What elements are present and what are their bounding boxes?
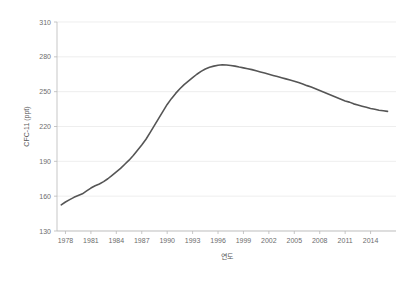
data-series-group [61,65,387,205]
y-tick-label: 250 [39,88,51,95]
y-tick-label: 160 [39,193,51,200]
y-tick-label: 310 [39,19,51,26]
line-chart: 130160190220250280310 197819811984198719… [0,0,414,282]
x-tick-label: 2002 [261,237,277,244]
x-tick-label: 1996 [210,237,226,244]
y-axis-ticks: 130160190220250280310 [39,19,57,235]
x-tick-label: 1978 [58,237,74,244]
gridlines-group [57,22,396,231]
y-tick-label: 190 [39,158,51,165]
series-line-cfc11 [61,65,387,205]
y-axis-title: CFC-11 (ppt) [23,106,31,146]
x-axis-ticks: 1978198119841987199019931996199920022005… [58,231,379,244]
x-tick-label: 2008 [312,237,328,244]
x-tick-label: 2011 [338,237,353,244]
x-tick-label: 1999 [236,237,252,244]
y-tick-label: 130 [39,228,51,235]
chart-container: 130160190220250280310 197819811984198719… [0,0,414,282]
x-tick-label: 1981 [83,237,99,244]
x-tick-label: 1990 [159,237,175,244]
x-tick-label: 1993 [185,237,201,244]
x-tick-label: 1987 [134,237,150,244]
x-axis-title: 연도 [221,253,234,260]
x-tick-label: 2005 [287,237,303,244]
y-tick-label: 280 [39,53,51,60]
x-tick-label: 1984 [109,237,125,244]
y-tick-label: 220 [39,123,51,130]
x-tick-label: 2014 [363,237,379,244]
